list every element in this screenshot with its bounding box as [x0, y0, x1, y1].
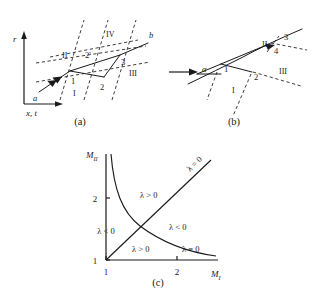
panel-a-region-III: III [129, 69, 137, 78]
panel-a-label-2: 2 [100, 82, 104, 92]
panel-b-solid-lines [197, 44, 269, 74]
panel-c-annotation-lambda-eq-0-asymptote: λ = 0 [182, 244, 199, 254]
panel-b-incoming-arrow [169, 69, 198, 76]
panel-a-label-1: 1 [71, 76, 75, 86]
panel-a-label-b: b [149, 30, 153, 40]
panel-a-y-axis-label: r [13, 34, 17, 44]
panel-c-xtick-1: 1 [104, 267, 109, 277]
panel-b-angle-label: α [202, 64, 207, 74]
caption-panel-c: (c) [78, 277, 238, 288]
panel-a-label-a: a [33, 93, 37, 103]
panel-b-label-4: 4 [274, 46, 279, 56]
figure-root: r x, t [0, 0, 313, 301]
panel-c-annotation-lambda-gt-0-upper: λ > 0 [140, 190, 157, 200]
panel-b-label-1: 1 [224, 64, 228, 74]
panel-c-y-axis-label: MII [85, 150, 98, 162]
panel-c-xtick-2: 2 [175, 267, 180, 277]
caption-panel-b: (b) [155, 116, 313, 127]
panel-a-label-3: 3 [121, 57, 125, 67]
panel-c-annotation-lambda-gt-0-lower: λ > 0 [132, 244, 149, 254]
panel-a-label-2-prime: 2' [85, 50, 91, 60]
panel-b-label-2: 2 [254, 72, 258, 82]
panel-b-region-I: I [232, 86, 235, 95]
panel-c-annotation-lambda-eq-0-diagonal: λ = 0 [184, 154, 203, 173]
panel-a-axes [21, 31, 63, 107]
panel-c-annotation-lambda-lt-0-left: λ < 0 [97, 226, 114, 236]
panel-a-dashed-lines [36, 20, 150, 100]
panel-a-region-II: II [62, 51, 68, 60]
panel-c-ytick-2: 2 [93, 194, 98, 204]
panel-b-region-III: III [279, 67, 287, 76]
caption-panel-a: (a) [0, 116, 160, 127]
panel-a-solid-lines [39, 43, 148, 92]
panel-c-annotation-lambda-lt-0-right: λ < 0 [169, 222, 186, 232]
panel-c-ytick-1: 1 [93, 256, 98, 266]
panel-a-region-I: I [73, 89, 76, 98]
panel-b-label-3: 3 [284, 32, 288, 42]
panel-a-region-IV: IV [106, 30, 115, 39]
panel-b-region-II: II [262, 40, 268, 49]
